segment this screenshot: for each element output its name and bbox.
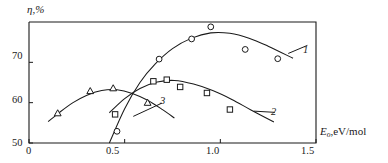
x-tick-label-0: 0 [26, 145, 31, 156]
y-tick-label-60: 60 [12, 94, 23, 105]
fitted-curves [48, 32, 293, 143]
data-markers [54, 24, 280, 134]
chart-figure: η,% Eo,eV/mol 70 60 50 0 0.5 1.0 1.5 1 2… [0, 0, 388, 163]
curve-label-1: 1 [303, 44, 308, 55]
curve-1 [109, 32, 293, 143]
y-axis-title: η,% [27, 3, 44, 15]
data-point-series-2 [177, 84, 182, 89]
data-point-series-1 [275, 56, 281, 62]
axes-frame [29, 22, 316, 143]
data-point-series-1 [156, 56, 162, 62]
curve-label-3: 3 [160, 95, 165, 106]
data-point-series-2 [164, 77, 169, 82]
data-point-series-3 [87, 88, 94, 94]
x-tick-label-1-5: 1.5 [301, 145, 314, 156]
x-tick-label-1-0: 1.0 [206, 145, 219, 156]
data-point-series-1 [189, 36, 195, 42]
y-tick-label-70: 70 [12, 50, 23, 61]
data-point-series-2 [204, 90, 209, 95]
data-point-series-1 [114, 128, 120, 134]
data-point-series-1 [242, 47, 248, 53]
y-tick-label-50: 50 [12, 137, 23, 148]
x-axis-title: Eo,eV/mol [320, 125, 366, 139]
data-point-series-2 [112, 112, 117, 117]
data-point-series-3 [144, 99, 151, 105]
data-point-series-3 [110, 85, 117, 91]
data-point-series-1 [208, 24, 214, 30]
data-point-series-2 [227, 107, 232, 112]
data-point-series-3 [54, 110, 61, 116]
x-tick-label-0-5: 0.5 [106, 145, 119, 156]
data-point-series-2 [151, 79, 156, 84]
curve-label-2: 2 [271, 106, 276, 117]
